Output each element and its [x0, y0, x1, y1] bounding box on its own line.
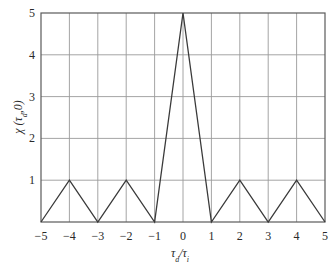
x-axis-label: τd/τi	[171, 246, 189, 264]
y-tick-label: 3	[29, 90, 35, 104]
x-tick-label: 4	[294, 229, 300, 243]
x-tick-label: −5	[35, 229, 48, 243]
x-tick-label: −2	[120, 229, 133, 243]
x-tick-label: 0	[180, 229, 186, 243]
grid-lines	[41, 13, 325, 222]
x-tick-label: −4	[63, 229, 76, 243]
x-tick-label: 2	[237, 229, 243, 243]
y-axis-ticks: 12345	[29, 6, 35, 187]
x-tick-label: 5	[322, 229, 328, 243]
chart: −5−4−3−2−1012345 12345 τd/τi χ (τd,0)	[0, 0, 336, 266]
x-tick-label: 1	[208, 229, 214, 243]
x-axis-ticks: −5−4−3−2−1012345	[35, 229, 328, 243]
y-tick-label: 4	[29, 48, 35, 62]
x-tick-label: −1	[148, 229, 161, 243]
x-tick-label: −3	[91, 229, 104, 243]
y-tick-label: 2	[29, 131, 35, 145]
y-tick-label: 5	[29, 6, 35, 20]
y-tick-label: 1	[29, 173, 35, 187]
y-axis-label: χ (τd,0)	[11, 100, 29, 135]
x-tick-label: 3	[265, 229, 271, 243]
